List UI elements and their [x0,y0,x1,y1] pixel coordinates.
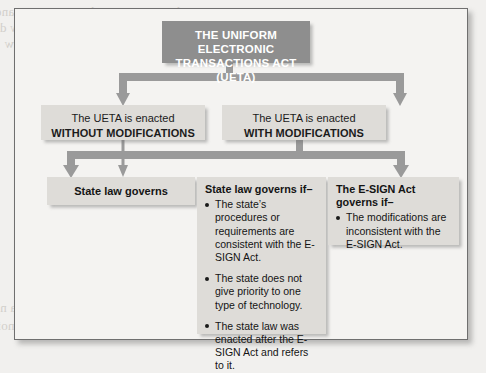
list-item-text: The state’s procedures or requirements a… [215,198,319,264]
bullet-icon [205,324,209,328]
list-item: The state does not give priority to one … [205,272,319,312]
title-line-1: THE UNIFORM ELECTRONIC [195,29,277,55]
outcome-heading: State law governs if– [205,183,319,196]
list-item: The modifications are inconsistent with … [336,211,452,251]
bullet-icon [205,277,209,281]
branch-emphasis-text: WITH MODIFICATIONS [222,126,386,141]
branch-lead-text: The UETA is enacted [71,112,174,124]
bullet-icon [336,216,340,220]
list-item-text: The state does not give priority to one … [215,272,319,312]
list-item-text: The state law was enacted after the E-SI… [215,320,319,373]
list-item-text: The modifications are inconsistent with … [346,211,452,251]
flowchart-figure: THE UNIFORM ELECTRONIC TRANSACTIONS ACT … [14,8,468,340]
outcome-box-esign-act-governs-if: The E-SIGN Act governs if– The modificat… [328,177,459,245]
list-item: The state’s procedures or requirements a… [205,198,319,264]
outcome-condition-list: The state’s procedures or requirements a… [205,198,319,372]
outcome-box-state-law-governs: State law governs [47,177,195,205]
outcome-label: State law governs [74,185,168,197]
title-box: THE UNIFORM ELECTRONIC TRANSACTIONS ACT … [162,21,310,63]
branch-box-without-modifications: The UETA is enacted WITHOUT MODIFICATION… [41,105,205,140]
list-item: The state law was enacted after the E-SI… [205,320,319,373]
outcome-condition-list: The modifications are inconsistent with … [336,211,452,251]
branch-emphasis-text: WITHOUT MODIFICATIONS [41,126,205,141]
bullet-icon [205,203,209,207]
branch-lead-text: The UETA is enacted [252,112,355,124]
outcome-heading: The E-SIGN Act governs if– [336,183,452,209]
flowchart-canvas: THE UNIFORM ELECTRONIC TRANSACTIONS ACT … [15,9,467,339]
branch-box-with-modifications: The UETA is enacted WITH MODIFICATIONS [222,105,386,140]
outcome-box-state-law-governs-if: State law governs if– The state’s proced… [197,177,326,334]
